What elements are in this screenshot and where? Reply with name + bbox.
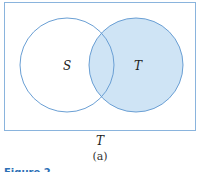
subfigure-label: (a) [92,150,107,163]
universe-label: T [96,134,105,148]
set-s-label: S [63,59,71,73]
set-t-label: T [134,59,143,73]
venn-diagram: S T T (a) Figure 2 [0,0,199,172]
figure-caption: Figure 2 [4,167,51,172]
